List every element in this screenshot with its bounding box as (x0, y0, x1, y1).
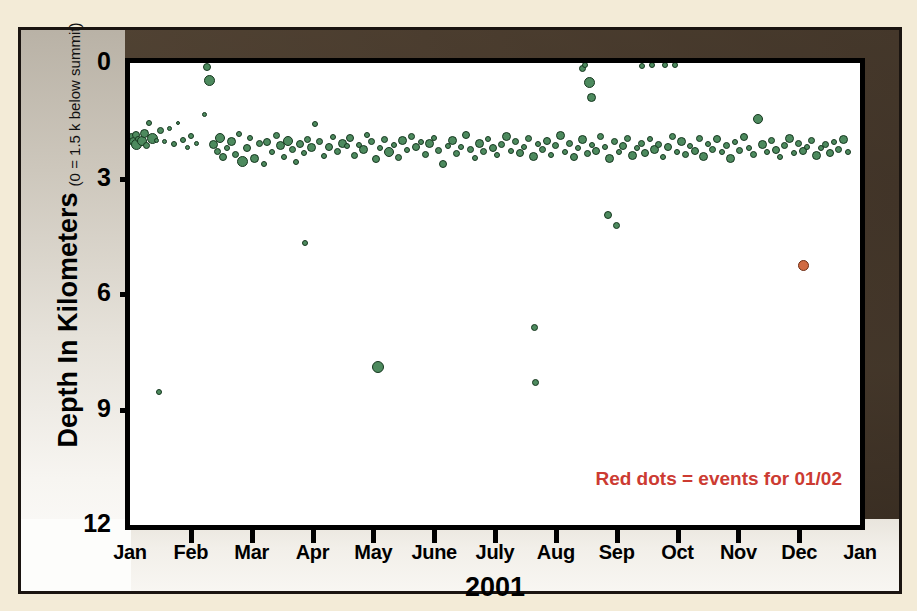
data-point (831, 139, 837, 145)
data-point (194, 141, 199, 146)
data-point (570, 153, 578, 161)
data-point (236, 131, 242, 137)
legend-note: Red dots = events for 01/02 (595, 468, 842, 490)
data-point (691, 147, 699, 155)
data-point (699, 152, 708, 161)
data-point (582, 63, 588, 68)
data-point (566, 140, 573, 147)
data-point (785, 134, 794, 143)
data-point (494, 152, 500, 158)
data-point (732, 139, 738, 145)
data-point (408, 133, 415, 140)
data-point (435, 147, 442, 154)
data-point (475, 139, 484, 148)
data-point (256, 140, 263, 147)
data-point (453, 150, 460, 157)
data-point (613, 222, 620, 229)
data-point (578, 135, 587, 144)
data-point (660, 154, 666, 160)
data-point (552, 142, 559, 149)
data-point (171, 141, 177, 147)
data-point (584, 150, 591, 157)
data-point (804, 144, 810, 150)
data-point (696, 135, 703, 142)
data-point (296, 140, 304, 148)
data-point (203, 63, 211, 71)
data-point (619, 142, 627, 150)
data-point (647, 136, 653, 142)
data-point (605, 154, 614, 163)
data-point (462, 131, 470, 139)
figure-mat: Depth In Kilometers (0 = 1.5 k below sum… (21, 30, 899, 591)
data-point (531, 324, 538, 331)
figure-outer-frame: Depth In Kilometers (0 = 1.5 k below sum… (18, 27, 902, 594)
data-point (822, 141, 829, 148)
data-point (839, 135, 848, 144)
data-point (723, 142, 730, 149)
data-point (764, 149, 770, 155)
data-point (359, 145, 368, 154)
data-point (502, 132, 511, 141)
data-point (418, 139, 424, 145)
data-point (281, 154, 287, 160)
data-point (597, 133, 604, 140)
data-point (351, 152, 358, 159)
data-point (439, 160, 447, 168)
data-point (529, 152, 538, 161)
data-point (611, 138, 618, 145)
plot-frame: Red dots = events for 01/02 (125, 58, 865, 530)
data-point (146, 120, 152, 126)
data-point (808, 137, 815, 144)
data-point (293, 159, 299, 165)
plot-area (130, 63, 860, 525)
data-point (372, 155, 380, 163)
data-point (736, 147, 743, 154)
data-point (302, 240, 308, 246)
data-point (316, 138, 323, 145)
data-point (157, 127, 164, 134)
data-point (384, 147, 394, 157)
data-point (512, 138, 519, 145)
data-point (655, 141, 662, 148)
data-point (624, 135, 631, 142)
data-point (592, 147, 600, 155)
data-point (489, 144, 497, 152)
y-tick-label-0: 0 (71, 47, 111, 76)
data-point (188, 133, 194, 139)
data-point (674, 149, 680, 155)
data-point (584, 77, 595, 88)
data-point (283, 136, 293, 146)
data-point (772, 146, 780, 154)
data-point (307, 143, 316, 152)
data-point (269, 149, 275, 155)
data-point (777, 154, 783, 160)
data-point (346, 134, 354, 142)
data-point (156, 389, 162, 395)
data-point (709, 146, 716, 153)
data-point (812, 151, 821, 160)
data-point (543, 137, 551, 145)
data-point (539, 146, 546, 153)
data-point (458, 144, 464, 150)
data-point (575, 145, 581, 151)
data-point (273, 132, 280, 139)
y-tick-label-6: 6 (71, 278, 111, 307)
data-point (330, 134, 336, 140)
data-point (368, 138, 375, 145)
data-point (312, 121, 318, 127)
data-point (498, 141, 505, 148)
data-point (472, 155, 478, 161)
y-axis-title-group: Depth In Kilometers (0 = 1.5 k below sum… (33, 70, 103, 400)
data-point (398, 136, 407, 145)
data-point (791, 150, 797, 156)
data-point (237, 156, 248, 167)
data-point (467, 146, 474, 153)
data-point (404, 147, 410, 153)
data-point (250, 154, 259, 163)
y-tick-label-9: 9 (71, 394, 111, 423)
data-point (372, 361, 384, 373)
data-point (638, 140, 645, 147)
data-point (758, 140, 767, 149)
y-tick-label-3: 3 (71, 163, 111, 192)
x-axis-title: 2001 (125, 572, 865, 603)
